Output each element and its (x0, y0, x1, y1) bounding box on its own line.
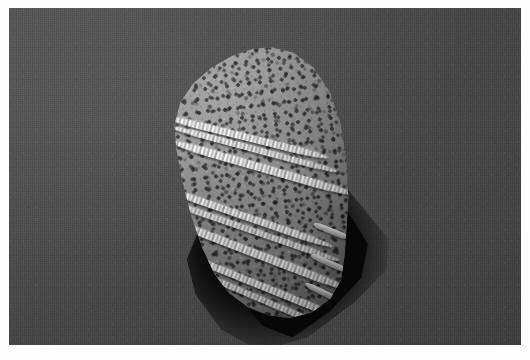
micrograph-figure: ovate, dome-apexed specimen with densely… (0, 0, 530, 360)
photo-frame (9, 8, 521, 345)
micrograph-plate (9, 8, 521, 345)
figure-caption: ovate, dome-apexed specimen with densely… (0, 0, 1, 1)
